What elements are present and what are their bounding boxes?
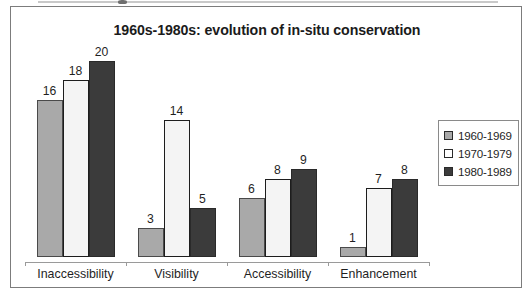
bar-value-label: 7 bbox=[375, 173, 382, 185]
legend-swatch-1960s bbox=[444, 131, 453, 140]
bar-column: 9 bbox=[291, 51, 317, 257]
bar-column: 8 bbox=[265, 51, 291, 257]
chart-title: 1960s-1980s: evolution of in-situ conser… bbox=[11, 22, 523, 38]
x-axis-category-label: Visibility bbox=[126, 267, 227, 281]
bar bbox=[37, 100, 63, 257]
bar-value-label: 18 bbox=[69, 65, 83, 77]
bar-value-label: 14 bbox=[170, 105, 184, 117]
bar bbox=[89, 61, 115, 257]
bar-value-label: 16 bbox=[43, 85, 57, 97]
bar-value-label: 6 bbox=[248, 183, 255, 195]
bar bbox=[366, 188, 392, 257]
bar-column: 3 bbox=[138, 51, 164, 257]
bar-group: 178 bbox=[328, 51, 429, 257]
bar-column: 20 bbox=[89, 51, 115, 257]
bar-value-label: 1 bbox=[349, 232, 356, 244]
bar-value-label: 20 bbox=[95, 46, 109, 58]
legend-item-label: 1960-1969 bbox=[458, 129, 512, 142]
bar-group: 161820 bbox=[25, 51, 126, 257]
chart-frame: 1960s-1980s: evolution of in-situ conser… bbox=[10, 6, 522, 288]
bar-column: 5 bbox=[190, 51, 216, 257]
bar bbox=[392, 179, 418, 257]
bar-group-bars: 689 bbox=[227, 51, 328, 257]
bar-column: 16 bbox=[37, 51, 63, 257]
scan-smudge-line bbox=[38, 1, 498, 3]
x-axis-tick bbox=[126, 262, 127, 266]
scan-artifact-strip bbox=[0, 0, 531, 4]
bar-value-label: 8 bbox=[401, 164, 408, 176]
x-axis-category-labels: InaccessibilityVisibilityAccessibilityEn… bbox=[25, 267, 429, 281]
bar-value-label: 8 bbox=[274, 164, 281, 176]
bar-groups: 1618203145689178 bbox=[25, 51, 429, 257]
x-axis-tick bbox=[227, 262, 228, 266]
legend-swatch-1970s bbox=[444, 149, 453, 158]
bar-value-label: 9 bbox=[300, 154, 307, 166]
x-axis-tick bbox=[328, 262, 329, 266]
x-axis-category-label: Accessibility bbox=[227, 267, 328, 281]
bar-column: 7 bbox=[366, 51, 392, 257]
bar-group: 689 bbox=[227, 51, 328, 257]
x-axis-category-label: Enhancement bbox=[328, 267, 429, 281]
bar-column: 18 bbox=[63, 51, 89, 257]
bar bbox=[164, 120, 190, 257]
bar bbox=[63, 80, 89, 257]
legend-item-label: 1970-1979 bbox=[458, 147, 512, 160]
bar-column: 1 bbox=[340, 51, 366, 257]
legend-swatch-1980s bbox=[444, 167, 453, 176]
chart-screenshot: 1960s-1980s: evolution of in-situ conser… bbox=[0, 0, 531, 294]
bar bbox=[190, 208, 216, 257]
chart-legend: 1960-19691970-19791980-1989 bbox=[438, 120, 519, 186]
bar-column: 14 bbox=[164, 51, 190, 257]
bar-group-bars: 161820 bbox=[25, 51, 126, 257]
bar bbox=[291, 169, 317, 257]
scan-smudge-blob bbox=[118, 0, 127, 4]
bar-value-label: 3 bbox=[147, 213, 154, 225]
x-axis-tick bbox=[25, 262, 26, 266]
bar bbox=[239, 198, 265, 257]
bar-column: 6 bbox=[239, 51, 265, 257]
plot-area: 1618203145689178 bbox=[25, 51, 429, 263]
legend-item: 1960-1969 bbox=[444, 126, 514, 144]
bar-group-bars: 3145 bbox=[126, 51, 227, 257]
x-axis-tick bbox=[429, 262, 430, 266]
legend-item: 1980-1989 bbox=[444, 162, 514, 180]
legend-item-label: 1980-1989 bbox=[458, 165, 512, 178]
bar-group-bars: 178 bbox=[328, 51, 429, 257]
bar-group: 3145 bbox=[126, 51, 227, 257]
legend-item: 1970-1979 bbox=[444, 144, 514, 162]
x-axis-category-label: Inaccessibility bbox=[25, 267, 126, 281]
bar bbox=[138, 228, 164, 257]
bar bbox=[340, 247, 366, 257]
bar-column: 8 bbox=[392, 51, 418, 257]
bar-value-label: 5 bbox=[199, 193, 206, 205]
bar bbox=[265, 179, 291, 257]
